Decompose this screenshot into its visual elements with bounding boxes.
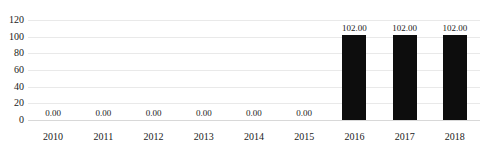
category-column-2013: 0.00 2013 bbox=[179, 20, 229, 145]
y-axis: 120 100 80 60 40 20 0 bbox=[0, 20, 24, 120]
x-axis-tick-label: 2018 bbox=[430, 131, 480, 142]
x-axis-tick-label: 2015 bbox=[279, 131, 329, 142]
x-axis-tick-label: 2012 bbox=[128, 131, 178, 142]
x-axis-tick-label: 2017 bbox=[380, 131, 430, 142]
y-axis-tick-label: 20 bbox=[0, 98, 24, 108]
x-axis-tick-label: 2011 bbox=[78, 131, 128, 142]
bar-value-label: 0.00 bbox=[128, 109, 178, 118]
y-axis-tick-label: 120 bbox=[0, 15, 24, 25]
clipped-header-text-label: —— —— bbox=[186, 0, 226, 3]
x-axis-tick-label: 2016 bbox=[329, 131, 379, 142]
category-column-2010: 0.00 2010 bbox=[28, 20, 78, 145]
y-axis-tick-label: 100 bbox=[0, 32, 24, 42]
category-column-2018: 102.00 2018 bbox=[430, 20, 480, 145]
category-column-2015: 0.00 2015 bbox=[279, 20, 329, 145]
y-axis-tick-label: 80 bbox=[0, 48, 24, 58]
bar-value-label: 102.00 bbox=[430, 24, 480, 33]
category-column-2016: 102.00 2016 bbox=[329, 20, 379, 145]
category-column-2014: 0.00 2014 bbox=[229, 20, 279, 145]
bar bbox=[342, 35, 366, 120]
bar-value-label: 0.00 bbox=[78, 109, 128, 118]
y-axis-tick-label: 0 bbox=[0, 115, 24, 125]
bar-value-label: 102.00 bbox=[329, 24, 379, 33]
bar-value-label: 0.00 bbox=[279, 109, 329, 118]
bar bbox=[443, 35, 467, 120]
bar-value-label: 0.00 bbox=[28, 109, 78, 118]
bar-series: 0.00 2010 0.00 2011 0.00 2012 0.00 2013 … bbox=[28, 20, 480, 145]
category-column-2012: 0.00 2012 bbox=[128, 20, 178, 145]
bar-chart: —— —— 120 100 80 60 40 20 0 0.00 2010 0.… bbox=[0, 0, 486, 145]
x-axis-tick-label: 2010 bbox=[28, 131, 78, 142]
clipped-header-text: —— —— bbox=[0, 0, 486, 7]
bar-value-label: 102.00 bbox=[380, 24, 430, 33]
bar-value-label: 0.00 bbox=[229, 109, 279, 118]
x-axis-tick-label: 2014 bbox=[229, 131, 279, 142]
y-axis-tick-label: 40 bbox=[0, 82, 24, 92]
category-column-2017: 102.00 2017 bbox=[380, 20, 430, 145]
y-axis-tick-label: 60 bbox=[0, 65, 24, 75]
x-axis-tick-label: 2013 bbox=[179, 131, 229, 142]
bar-value-label: 0.00 bbox=[179, 109, 229, 118]
bar bbox=[393, 35, 417, 120]
category-column-2011: 0.00 2011 bbox=[78, 20, 128, 145]
